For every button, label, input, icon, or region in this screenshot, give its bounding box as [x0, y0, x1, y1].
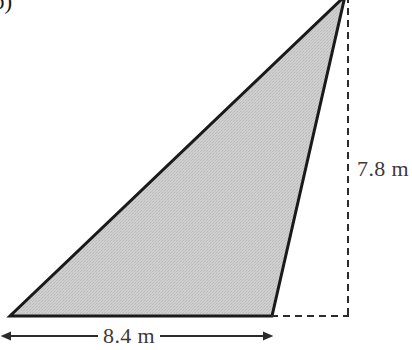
base-dimension-label: 8.4 m	[98, 323, 160, 349]
triangle-diagram-svg	[0, 0, 412, 350]
geometry-figure: b) 7.8 m 8.4 m	[0, 0, 412, 350]
triangle-polygon	[10, 0, 345, 316]
height-dimension-label: 7.8 m	[357, 156, 409, 182]
triangle-shape	[10, 0, 345, 316]
